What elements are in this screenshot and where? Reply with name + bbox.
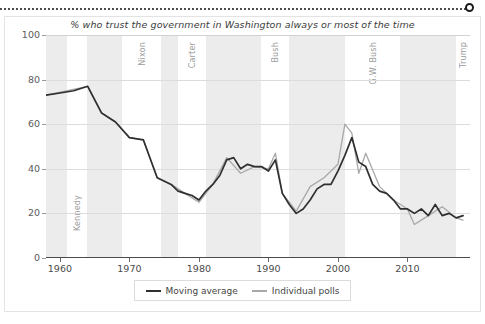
x-axis-tick-label: 1990 <box>246 263 290 274</box>
legend-item-individual-polls[interactable]: Individual polls <box>252 286 340 296</box>
y-axis-tick-label: 0 <box>6 252 40 263</box>
y-axis-tick-label: 80 <box>6 74 40 85</box>
y-axis-tick-mark <box>42 169 46 170</box>
y-axis-tick-label: 20 <box>6 207 40 218</box>
x-axis-tick-mark <box>129 258 130 262</box>
x-axis-tick-mark <box>338 258 339 262</box>
page-title: % who trust the government in Washington… <box>0 19 485 30</box>
x-axis-tick-label: 1980 <box>177 263 221 274</box>
top-dotted-rule <box>0 8 470 10</box>
y-axis-tick-mark <box>42 80 46 81</box>
legend-label-moving-average: Moving average <box>166 286 238 296</box>
y-axis-tick-label: 100 <box>6 29 40 40</box>
plot-area <box>46 35 470 258</box>
x-axis-tick-mark <box>199 258 200 262</box>
y-axis-tick-label: 40 <box>6 163 40 174</box>
legend-label-individual-polls: Individual polls <box>272 286 340 296</box>
y-axis-tick-mark <box>42 35 46 36</box>
x-axis-tick-mark <box>60 258 61 262</box>
line-moving-average <box>46 86 463 218</box>
y-axis-tick-mark <box>42 213 46 214</box>
axis-bottom-line <box>46 257 470 258</box>
y-axis-tick-label: 60 <box>6 118 40 129</box>
x-axis-tick-mark <box>407 258 408 262</box>
legend-line-icon-moving-average <box>146 290 161 292</box>
x-axis-tick-label: 2000 <box>316 263 360 274</box>
x-axis-tick-label: 2010 <box>385 263 429 274</box>
top-right-circle-handle[interactable] <box>465 3 474 12</box>
x-axis-tick-label: 1960 <box>38 263 82 274</box>
x-axis-tick-mark <box>268 258 269 262</box>
x-axis-tick-label: 1970 <box>107 263 151 274</box>
series-lines <box>46 35 470 258</box>
chart-legend: Moving average Individual polls <box>134 280 351 301</box>
y-axis-tick-mark <box>42 258 46 259</box>
y-axis-tick-mark <box>42 124 46 125</box>
chart-screenshot: % who trust the government in Washington… <box>0 0 485 324</box>
legend-item-moving-average[interactable]: Moving average <box>146 286 238 296</box>
legend-line-icon-individual-polls <box>252 290 267 292</box>
line-individual-polls <box>46 86 463 224</box>
plot-clip <box>46 35 470 258</box>
